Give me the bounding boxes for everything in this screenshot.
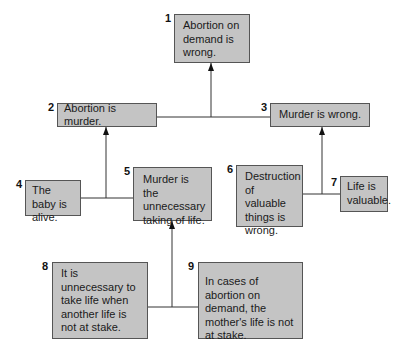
statement-text-3: Murder is wrong. xyxy=(279,108,361,122)
statement-number-5: 5 xyxy=(124,165,130,177)
statement-box-8: It is unnecessary to take life when anot… xyxy=(52,262,148,339)
statement-number-1: 1 xyxy=(165,12,171,24)
statement-text-9: In cases of abortion on demand, the moth… xyxy=(205,275,293,341)
statement-box-7: Life is valuable. xyxy=(340,176,388,212)
statement-number-8: 8 xyxy=(42,260,48,272)
statement-box-3: Murder is wrong. xyxy=(270,103,370,127)
statement-number-9: 9 xyxy=(188,260,194,272)
statement-number-4: 4 xyxy=(16,178,22,190)
statement-text-2: Abortion is murder. xyxy=(64,102,150,129)
arrowhead-icon xyxy=(208,63,214,71)
statement-text-1: Abortion on demand is wrong. xyxy=(183,19,239,58)
statement-text-8: It is unnecessary to take life when anot… xyxy=(61,267,136,333)
statement-number-6: 6 xyxy=(227,163,233,175)
statement-box-6: Destruction of valuable things is wrong. xyxy=(236,165,303,227)
arrowhead-icon xyxy=(319,127,325,135)
statement-text-6: Destruction of valuable things is wrong. xyxy=(245,170,301,236)
statement-text-7: Life is valuable. xyxy=(347,180,391,206)
statement-text-5: Murder is the unnecessary taking of life… xyxy=(143,173,205,226)
statement-box-9: In cases of abortion on demand, the moth… xyxy=(198,262,303,339)
statement-box-2: Abortion is murder. xyxy=(57,103,157,127)
statement-number-3: 3 xyxy=(261,101,267,113)
statement-box-1: Abortion on demand is wrong. xyxy=(174,14,250,63)
statement-number-7: 7 xyxy=(331,176,337,188)
statement-box-4: The baby is alive. xyxy=(25,180,81,216)
statement-box-5: Murder is the unnecessary taking of life… xyxy=(133,167,212,221)
statement-number-2: 2 xyxy=(48,101,54,113)
